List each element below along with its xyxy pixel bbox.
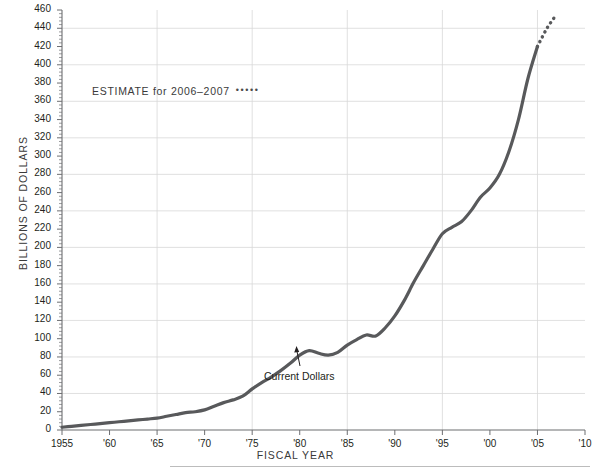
y-tick-label: 240	[11, 204, 51, 215]
y-tick-label: 220	[11, 222, 51, 233]
y-tick-label: 440	[11, 21, 51, 32]
y-tick-label: 60	[11, 368, 51, 379]
y-tick-label: 380	[11, 76, 51, 87]
x-tick-label: '75	[232, 438, 272, 449]
x-tick-label: '90	[375, 438, 415, 449]
x-tick-label: '05	[517, 438, 557, 449]
estimate-legend-note: ESTIMATE for 2006–2007•••••	[92, 85, 260, 97]
y-tick-label: 340	[11, 113, 51, 124]
x-tick-label: '10	[565, 438, 596, 449]
x-axis-title: FISCAL YEAR	[0, 449, 591, 461]
x-tick-label: '95	[422, 438, 462, 449]
estimate-dot-sample: •••••	[236, 85, 260, 95]
x-tick-label: 1955	[42, 438, 82, 449]
footer-divider-rule	[170, 466, 590, 467]
y-tick-label: 260	[11, 186, 51, 197]
y-tick-label: 460	[11, 3, 51, 14]
y-tick-label: 180	[11, 259, 51, 270]
y-tick-label: 400	[11, 58, 51, 69]
y-tick-label: 120	[11, 313, 51, 324]
x-tick-label: '65	[137, 438, 177, 449]
y-tick-label: 320	[11, 131, 51, 142]
y-tick-label: 100	[11, 332, 51, 343]
x-tick-label: '00	[470, 438, 510, 449]
y-tick-label: 200	[11, 240, 51, 251]
estimate-legend-text: ESTIMATE for 2006–2007	[92, 85, 230, 97]
y-tick-label: 420	[11, 40, 51, 51]
y-tick-label: 80	[11, 350, 51, 361]
y-tick-label: 300	[11, 149, 51, 160]
x-tick-label: '80	[280, 438, 320, 449]
y-tick-label: 360	[11, 94, 51, 105]
x-tick-label: '85	[327, 438, 367, 449]
x-tick-label: '60	[90, 438, 130, 449]
y-tick-label: 160	[11, 277, 51, 288]
y-tick-label: 280	[11, 167, 51, 178]
current-dollars-callout: Current Dollars	[264, 370, 335, 382]
y-tick-label: 20	[11, 405, 51, 416]
y-tick-label: 140	[11, 295, 51, 306]
callout-arrow-head	[294, 346, 299, 352]
y-tick-label: 0	[11, 423, 51, 434]
x-tick-label: '70	[185, 438, 225, 449]
y-tick-label: 40	[11, 386, 51, 397]
estimate-series-line	[537, 15, 556, 47]
